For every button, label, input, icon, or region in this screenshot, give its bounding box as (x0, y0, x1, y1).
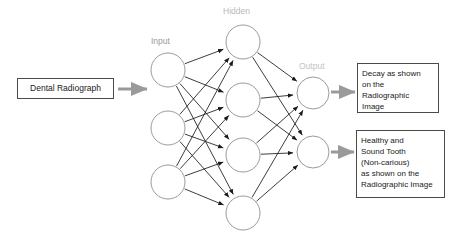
layer-label-hidden: Hidden (223, 6, 250, 16)
decay-line-1: Decay as shown (362, 68, 438, 79)
decay-line-3: Radiographic (362, 90, 438, 101)
decay-line-2: on the (362, 79, 438, 90)
input-source-label: Dental Radiograph (30, 83, 101, 94)
healthy-line-4: as shown on the (361, 168, 444, 179)
decay-outcome-box: Decay as shown on the Radiographic Image (357, 63, 439, 113)
neuron-nodes (151, 25, 329, 230)
output-neuron-1 (297, 77, 329, 109)
output-neuron-2 (297, 136, 329, 168)
decay-line-4: Image (362, 101, 438, 112)
synapse-edge (180, 142, 229, 198)
healthy-line-5: Radiographic Image (361, 179, 444, 190)
synapse-edge (180, 58, 229, 115)
synapse-edge (258, 53, 297, 82)
diagram-canvas: Dental Radiograph Decay as shown on the … (0, 0, 461, 243)
healthy-outcome-box: Healthy and Sound Tooth (Non-carious) as… (356, 130, 445, 198)
healthy-line-1: Healthy and (361, 135, 444, 146)
input-source-box: Dental Radiograph (17, 78, 114, 99)
synapse-edge (257, 111, 297, 140)
input-neuron-3 (151, 165, 185, 199)
synapse-edge (185, 189, 224, 205)
input-neuron-2 (151, 111, 185, 145)
layer-label-input: Input (151, 36, 170, 46)
healthy-line-2: Sound Tooth (361, 146, 444, 157)
input-neuron-1 (151, 53, 185, 87)
synapse-edge (185, 162, 223, 176)
synapse-edge (185, 49, 223, 63)
neural-network-graphic (0, 0, 461, 243)
healthy-line-3: (Non-carious) (361, 157, 444, 168)
synapse-edge (256, 106, 298, 143)
hidden-neuron-4 (226, 196, 260, 230)
synapse-edges (176, 49, 303, 205)
hidden-neuron-3 (226, 138, 260, 172)
hidden-neuron-1 (226, 25, 260, 59)
synapse-edge (180, 116, 229, 169)
synapse-edge (257, 165, 298, 201)
hidden-neuron-2 (226, 83, 260, 117)
layer-label-output: Output (299, 61, 325, 71)
synapse-edge (185, 134, 223, 148)
